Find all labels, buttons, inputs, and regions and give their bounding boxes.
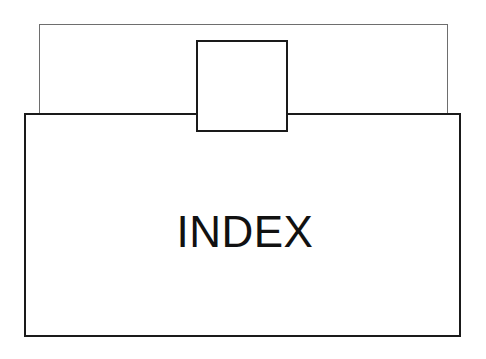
- diagram-canvas: INDEX: [0, 0, 486, 359]
- tab-square: [196, 40, 288, 132]
- front-panel-rectangle: INDEX: [24, 113, 461, 337]
- index-label: INDEX: [27, 210, 464, 254]
